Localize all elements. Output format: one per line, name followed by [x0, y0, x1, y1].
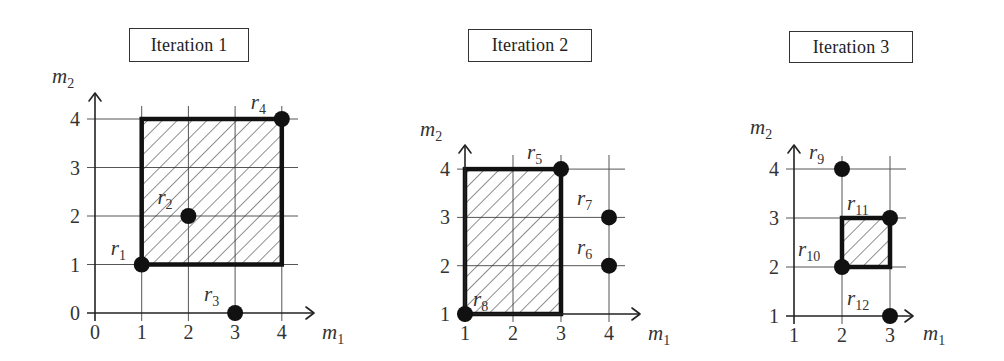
panel-iteration-3: 1231234m2m1r9r10r11r12 — [750, 115, 945, 348]
x-tick-label: 3 — [885, 324, 895, 346]
solution-point-r11 — [882, 210, 898, 226]
y-tick-label: 2 — [70, 205, 80, 227]
y-tick-label: 2 — [440, 255, 450, 277]
panel-title: Iteration 1 — [129, 28, 249, 62]
solution-point-r5 — [553, 161, 569, 177]
x-tick-label: 1 — [460, 322, 470, 344]
y-axis-label: m2 — [52, 64, 74, 91]
point-label-r4: r4 — [251, 90, 266, 117]
solution-point-r3 — [227, 305, 243, 321]
point-label-r5: r5 — [527, 140, 542, 167]
y-tick-label: 2 — [769, 256, 779, 278]
x-tick-label: 1 — [137, 321, 147, 343]
x-axis-label: m1 — [648, 321, 670, 348]
dominated-region — [842, 218, 890, 267]
point-label-r12: r12 — [847, 286, 869, 313]
x-tick-label: 4 — [277, 321, 287, 343]
solution-point-r4 — [274, 111, 290, 127]
x-tick-label: 2 — [508, 322, 518, 344]
x-tick-label: 0 — [90, 321, 100, 343]
solution-point-r7 — [601, 209, 617, 225]
x-axis-label: m1 — [322, 320, 344, 347]
y-axis-label: m2 — [750, 115, 772, 142]
point-label-r3: r3 — [204, 282, 219, 309]
solution-point-r6 — [601, 258, 617, 274]
solution-point-r9 — [834, 161, 850, 177]
x-axis-label: m1 — [923, 321, 945, 348]
point-label-r9: r9 — [809, 140, 824, 167]
solution-point-r8 — [457, 306, 473, 322]
y-tick-label: 3 — [70, 157, 80, 179]
point-label-r1: r1 — [111, 236, 126, 263]
solution-point-r12 — [882, 308, 898, 324]
solution-point-r10 — [834, 259, 850, 275]
y-tick-label: 4 — [440, 158, 450, 180]
point-label-r10: r10 — [798, 237, 820, 264]
y-tick-label: 1 — [440, 303, 450, 325]
panel-iteration-2: 12341234m2m1r5r6r7r8 — [420, 117, 670, 348]
panel-iteration-1: 0123401234m2m1r1r2r3r4 — [52, 64, 344, 347]
y-tick-label: 3 — [440, 206, 450, 228]
y-axis-label: m2 — [420, 117, 442, 144]
x-tick-label: 3 — [230, 321, 240, 343]
solution-point-r2 — [180, 208, 196, 224]
x-tick-label: 1 — [789, 324, 799, 346]
panel-title: Iteration 2 — [468, 29, 592, 62]
x-tick-label: 2 — [183, 321, 193, 343]
x-tick-label: 4 — [604, 322, 614, 344]
y-tick-label: 3 — [769, 207, 779, 229]
y-tick-label: 4 — [70, 108, 80, 130]
solution-point-r1 — [134, 257, 150, 273]
y-tick-label: 0 — [70, 302, 80, 324]
point-label-r7: r7 — [577, 186, 592, 213]
y-tick-label: 1 — [70, 254, 80, 276]
y-tick-label: 4 — [769, 158, 779, 180]
point-label-r11: r11 — [847, 191, 869, 218]
x-tick-label: 3 — [556, 322, 566, 344]
point-label-r6: r6 — [577, 235, 592, 262]
x-tick-label: 2 — [837, 324, 847, 346]
y-tick-label: 1 — [769, 305, 779, 327]
panel-title: Iteration 3 — [789, 31, 913, 63]
